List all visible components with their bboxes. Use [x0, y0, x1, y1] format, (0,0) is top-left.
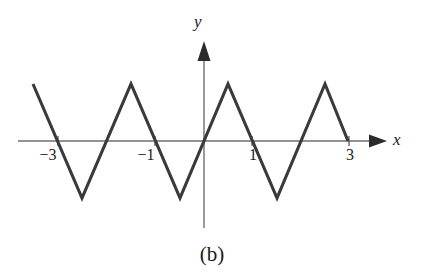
triangle-wave-plot [0, 0, 424, 277]
x-tick-label-neg3: −3 [35, 147, 61, 163]
y-axis-label: y [194, 13, 202, 30]
x-axis-arrowhead [369, 135, 387, 148]
figure-container: y x −3 −1 1 3 (b) [0, 0, 424, 277]
y-axis-arrowhead [198, 41, 211, 61]
x-tick-label-pos3: 3 [337, 147, 363, 163]
x-tick-label-neg1: −1 [133, 147, 159, 163]
figure-caption: (b) [0, 242, 424, 267]
x-axis-label: x [393, 131, 401, 148]
x-tick-label-pos1: 1 [240, 147, 266, 163]
